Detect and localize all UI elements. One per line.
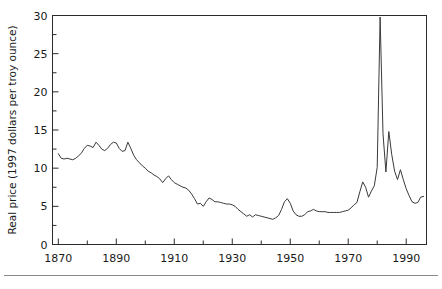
- x-axis-tick-labels: 1870189019101930195019701990: [44, 252, 420, 265]
- y-tick-label: 10: [34, 162, 48, 175]
- price-history-line-chart: 051015202530 187018901910193019501970199…: [0, 0, 442, 289]
- x-tick-label: 1970: [334, 252, 362, 265]
- y-tick-label: 0: [41, 239, 48, 252]
- y-tick-label: 20: [34, 86, 48, 99]
- x-tick-label: 1950: [276, 252, 304, 265]
- x-tick-label: 1930: [218, 252, 246, 265]
- y-tick-label: 5: [41, 200, 48, 213]
- x-axis-major-ticks: [58, 239, 406, 245]
- x-tick-label: 1910: [160, 252, 188, 265]
- figure-container: 051015202530 187018901910193019501970199…: [0, 0, 442, 289]
- x-tick-label: 1990: [392, 252, 420, 265]
- y-tick-label: 25: [34, 48, 48, 61]
- y-tick-label: 30: [34, 10, 48, 23]
- x-tick-label: 1890: [102, 252, 130, 265]
- data-series-group: [58, 17, 423, 219]
- y-axis-tick-labels: 051015202530: [34, 10, 48, 252]
- y-axis-title: Real price (1997 dollars per troy ounce): [6, 25, 18, 234]
- y-tick-label: 15: [34, 124, 48, 137]
- x-tick-label: 1870: [44, 252, 72, 265]
- series-line: [58, 17, 423, 219]
- y-axis-major-ticks: [53, 16, 59, 245]
